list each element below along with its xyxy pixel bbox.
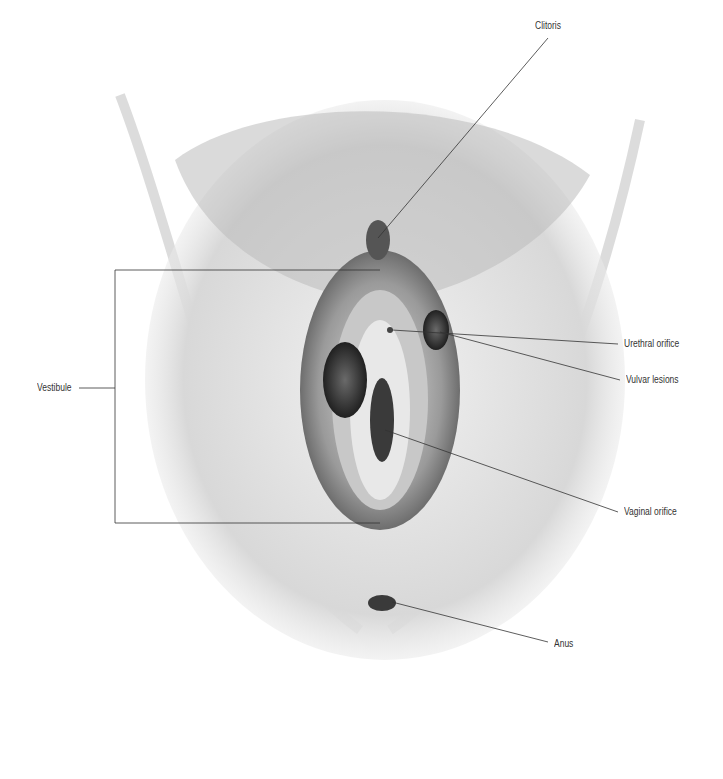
label-vaginal-orifice: Vaginal orifice (624, 506, 677, 517)
label-urethral-orifice: Urethral orifice (624, 338, 679, 349)
lesion-left (323, 342, 367, 418)
lesion-right (423, 310, 449, 350)
label-clitoris: Clitoris (535, 20, 561, 31)
anatomical-diagram: Clitoris Urethral orifice Vulvar lesions… (0, 0, 723, 779)
label-vulvar-lesions: Vulvar lesions (626, 374, 679, 385)
label-vestibule: Vestibule (37, 382, 72, 393)
label-anus: Anus (554, 638, 573, 649)
illustration (0, 0, 723, 779)
